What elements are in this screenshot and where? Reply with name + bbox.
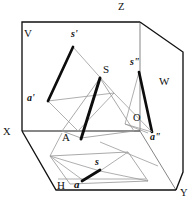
point-label-a-top: a: [74, 179, 80, 190]
point-label-S: S: [103, 64, 109, 75]
point-label-s-side: s": [130, 57, 139, 67]
plane-label-h: H: [57, 180, 65, 191]
top-proj-diag-3: [100, 171, 148, 181]
axis-label-z: Z: [118, 2, 124, 13]
v-plane-outline: [22, 22, 140, 131]
descriptive-geometry-figure: Z X Y O V H W S A s' a' s" a" s a: [0, 0, 194, 209]
point-label-s-top: s: [95, 157, 99, 167]
point-label-a-front: a': [27, 93, 35, 103]
axis-label-x: X: [3, 127, 11, 138]
space-pyramid-base-thin: [62, 131, 134, 138]
space-object-group: [62, 78, 134, 139]
frontal-projection-thin-diagonal: [48, 93, 114, 101]
ray-a-down: [50, 133, 62, 156]
frontal-projection-group: [48, 47, 114, 131]
axis-label-o: O: [133, 113, 141, 124]
plane-frames: [22, 22, 183, 190]
frontal-projection-edge-s-a: [48, 47, 73, 101]
profile-projection-edge-s-a: [139, 72, 152, 132]
plane-label-v: V: [24, 28, 32, 39]
point-label-a-side: a": [150, 132, 161, 142]
top-proj-diag-2: [100, 152, 128, 171]
top-proj-diag-1: [50, 156, 100, 171]
frontal-projection-thin-outline: [48, 47, 114, 131]
space-edge-S-A: [81, 78, 100, 139]
point-label-s-front: s': [71, 29, 78, 39]
axis-label-y: Y: [180, 188, 188, 199]
plane-label-w: W: [159, 76, 169, 87]
point-label-A: A: [62, 132, 70, 143]
